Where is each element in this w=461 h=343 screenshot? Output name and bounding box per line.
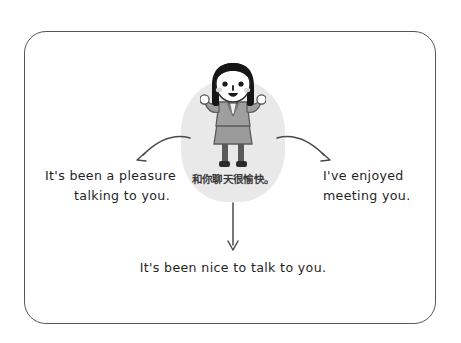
chinese-caption: 和你聊天很愉快。	[181, 171, 285, 186]
phrase-right-line2: meeting you.	[323, 186, 447, 206]
phrase-right: I've enjoyed meeting you.	[323, 166, 447, 207]
phrase-right-line1: I've enjoyed	[323, 166, 447, 186]
businesswoman-icon	[200, 62, 266, 172]
phrase-bottom-line1: It's been nice to talk to you.	[140, 260, 327, 275]
phrase-left-line2: talking to you.	[28, 186, 176, 206]
phrase-bottom: It's been nice to talk to you.	[92, 258, 374, 278]
phrase-left: It's been a pleasure talking to you.	[28, 166, 176, 207]
phrase-left-line1: It's been a pleasure	[28, 166, 176, 186]
page-root: 和你聊天很愉快。 It's been a pleasure talking to…	[0, 0, 461, 343]
